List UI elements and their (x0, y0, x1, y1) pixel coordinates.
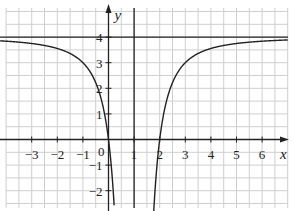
x-tick-label: −3 (25, 147, 39, 162)
y-tick-label: 1 (96, 107, 103, 122)
x-tick-label: 1 (131, 147, 138, 162)
y-tick-label: 3 (96, 56, 103, 71)
function-curves (0, 40, 288, 211)
y-tick-label: −1 (89, 158, 103, 173)
y-axis-label: y (113, 7, 122, 23)
y-tick-label: −2 (89, 184, 103, 199)
x-tick-label: 3 (182, 147, 189, 162)
grid-lines (6, 8, 288, 208)
y-axis-arrow-icon (106, 4, 112, 13)
right-branch-curve (154, 40, 288, 211)
axes (0, 4, 289, 211)
x-tick-label: 4 (208, 147, 215, 162)
function-graph: −3−2−1123456−2−112340 x y (0, 0, 294, 211)
origin-label: 0 (98, 144, 105, 159)
x-tick-label: 5 (233, 147, 240, 162)
x-tick-label: −2 (50, 147, 64, 162)
x-axis-label: x (279, 146, 287, 162)
y-tick-label: 4 (96, 30, 103, 45)
x-tick-label: 6 (259, 147, 266, 162)
